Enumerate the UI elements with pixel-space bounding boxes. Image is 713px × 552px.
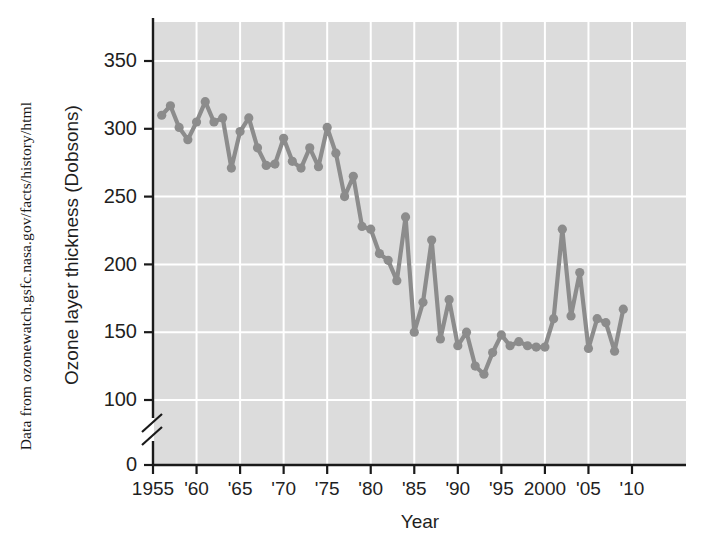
data-point-marker: [575, 268, 584, 277]
x-tick-label: '70: [271, 478, 296, 499]
data-point-marker: [262, 161, 271, 170]
data-point-marker: [497, 330, 506, 339]
data-point-marker: [384, 256, 393, 265]
x-tick-label: '80: [358, 478, 383, 499]
data-point-marker: [610, 347, 619, 356]
data-point-marker: [514, 337, 523, 346]
y-tick-label: 250: [104, 185, 137, 207]
data-point-marker: [584, 344, 593, 353]
x-tick-label: 1955: [132, 478, 174, 499]
x-tick-label: '65: [228, 478, 253, 499]
data-point-marker: [288, 157, 297, 166]
data-point-marker: [418, 298, 427, 307]
data-point-marker: [296, 164, 305, 173]
y-tick-label: 150: [104, 320, 137, 342]
data-point-marker: [305, 143, 314, 152]
data-point-marker: [505, 341, 514, 350]
data-point-marker: [209, 117, 218, 126]
data-point-marker: [227, 164, 236, 173]
ozone-thickness-figure: Data from ozonewatch.gsfc.nasa.gov/facts…: [0, 0, 713, 552]
x-tick-label: '10: [620, 478, 645, 499]
plot-area-background: [153, 22, 686, 465]
chart-canvas: 0100150200250300350 1955'60'65'70'75'80'…: [0, 0, 713, 552]
y-tick-label: 200: [104, 253, 137, 275]
y-tick-label: 100: [104, 388, 137, 410]
data-point-marker: [279, 134, 288, 143]
data-point-marker: [479, 370, 488, 379]
data-point-marker: [314, 162, 323, 171]
data-point-marker: [218, 113, 227, 122]
x-tick-label: '85: [402, 478, 427, 499]
data-point-marker: [619, 305, 628, 314]
data-point-marker: [558, 225, 567, 234]
data-point-marker: [392, 276, 401, 285]
data-point-marker: [349, 172, 358, 181]
data-point-marker: [357, 222, 366, 231]
data-point-marker: [471, 362, 480, 371]
data-point-marker: [235, 127, 244, 136]
plot-background-group: [153, 22, 686, 465]
x-tick-label: '75: [315, 478, 340, 499]
y-tick-labels: 0100150200250300350: [104, 49, 137, 475]
y-tick-label: 300: [104, 117, 137, 139]
data-point-marker: [540, 343, 549, 352]
data-point-marker: [340, 192, 349, 201]
data-point-marker: [523, 341, 532, 350]
data-point-marker: [183, 135, 192, 144]
y-tick-label: 350: [104, 49, 137, 71]
data-point-marker: [488, 348, 497, 357]
x-axis-title-text: Year: [401, 511, 440, 532]
x-tick-label: '05: [576, 478, 601, 499]
data-point-marker: [253, 143, 262, 152]
data-point-marker: [323, 123, 332, 132]
data-point-marker: [410, 328, 419, 337]
data-point-marker: [192, 117, 201, 126]
data-point-marker: [462, 328, 471, 337]
y-tick-label: 0: [126, 453, 137, 475]
x-tick-label: '90: [445, 478, 470, 499]
x-tick-label: '95: [489, 478, 514, 499]
data-point-marker: [453, 341, 462, 350]
x-tick-label: 2000: [524, 478, 566, 499]
data-point-marker: [270, 159, 279, 168]
data-point-marker: [532, 343, 541, 352]
data-point-marker: [175, 123, 184, 132]
data-point-marker: [375, 249, 384, 258]
data-point-marker: [436, 334, 445, 343]
data-point-marker: [593, 314, 602, 323]
data-point-marker: [601, 318, 610, 327]
data-point-marker: [201, 97, 210, 106]
x-tick-label: '60: [184, 478, 209, 499]
data-point-marker: [566, 311, 575, 320]
data-point-marker: [166, 101, 175, 110]
data-point-marker: [157, 111, 166, 120]
x-tick-labels: 1955'60'65'70'75'80'85'90'952000'05'10: [132, 478, 645, 499]
data-point-marker: [331, 149, 340, 158]
data-point-marker: [445, 295, 454, 304]
data-point-marker: [427, 235, 436, 244]
data-point-marker: [549, 314, 558, 323]
data-point-marker: [401, 212, 410, 221]
data-point-marker: [244, 113, 253, 122]
data-point-marker: [366, 225, 375, 234]
